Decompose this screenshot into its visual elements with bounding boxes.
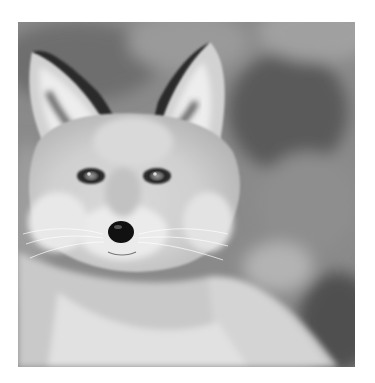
left-eye <box>77 168 105 184</box>
fox-illustration <box>18 22 355 367</box>
nose <box>108 221 134 243</box>
fox-photo <box>18 22 355 367</box>
right-eye <box>143 168 171 184</box>
